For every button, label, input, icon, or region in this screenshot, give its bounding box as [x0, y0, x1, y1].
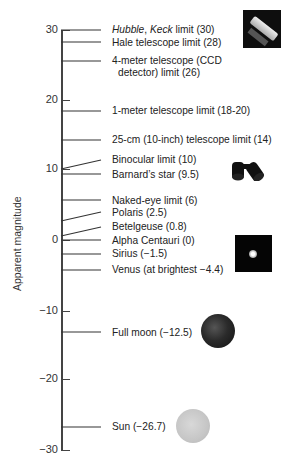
- marker-sirius: Sirius (−1.5): [112, 248, 167, 260]
- magnitude-scale-diagram: Apparent magnitude 30 20 10 0 −10 −20 −3…: [0, 0, 295, 465]
- hubble-telescope-image: [243, 10, 281, 48]
- marker-polaris: Polaris (2.5): [112, 207, 167, 219]
- marker-4-meter-line2: detector) limit (26): [118, 67, 200, 79]
- marker-sun: Sun (−26.7): [112, 421, 166, 433]
- marker-alpha-centauri: Alpha Centauri (0): [112, 235, 195, 247]
- marker-naked-eye: Naked-eye limit (6): [112, 195, 198, 207]
- limit-text: limit (30): [173, 24, 215, 35]
- marker-binocular: Binocular limit (10): [112, 154, 196, 166]
- sun-image: [176, 409, 210, 443]
- marker-betelgeuse: Betelgeuse (0.8): [112, 221, 187, 233]
- hubble-text: Hubble: [112, 24, 144, 35]
- binoculars-image: [231, 156, 265, 181]
- marker-1-meter: 1-meter telescope limit (18-20): [112, 105, 250, 117]
- marker-hubble-keck: Hubble, Keck limit (30): [112, 24, 215, 36]
- marker-barnards-star: Barnard’s star (9.5): [112, 169, 199, 181]
- marker-hale: Hale telescope limit (28): [112, 37, 221, 49]
- full-moon-image: [201, 314, 235, 348]
- marker-25cm: 25-cm (10-inch) telescope limit (14): [112, 134, 272, 146]
- marker-venus: Venus (at brightest −4.4): [112, 264, 223, 276]
- marker-4-meter-line1: 4-meter telescope (CCD: [112, 55, 222, 67]
- marker-full-moon: Full moon (−12.5): [112, 327, 192, 339]
- sirius-star-image: [235, 235, 272, 272]
- keck-text: Keck: [150, 24, 173, 35]
